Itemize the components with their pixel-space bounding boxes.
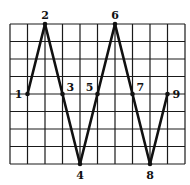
point-3-label: 3 (67, 81, 75, 94)
point-5-label: 5 (86, 81, 94, 94)
point-4-dot (78, 162, 83, 167)
zigzag-grid-diagram: 123456789 (0, 0, 190, 185)
point-2-label: 2 (41, 9, 49, 22)
point-3-dot (60, 92, 65, 97)
point-8-label: 8 (146, 169, 154, 182)
point-6-dot (113, 22, 118, 27)
point-7-label: 7 (137, 81, 145, 94)
point-2-dot (43, 22, 48, 27)
point-8-dot (148, 162, 153, 167)
point-7-dot (130, 92, 135, 97)
point-1-dot (25, 92, 30, 97)
point-4-label: 4 (76, 169, 84, 182)
point-5-dot (95, 92, 100, 97)
point-1-label: 1 (15, 88, 23, 101)
point-9-label: 9 (173, 88, 181, 101)
point-6-label: 6 (111, 9, 119, 22)
point-9-dot (165, 92, 170, 97)
